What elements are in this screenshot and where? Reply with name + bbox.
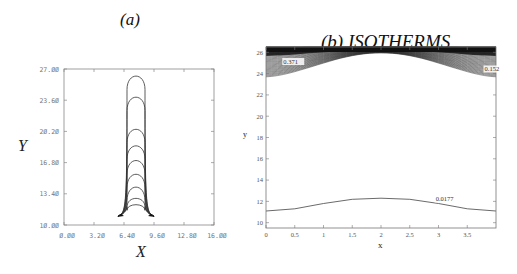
panel-a-plot: Ø.ØØ3.2Ø6.4Ø9.6Ø12.8Ø16.ØØ1Ø.ØØ13.4Ø16.8… (39, 66, 226, 241)
panel-a-y-tick-label: 27.ØØ (39, 66, 59, 74)
panel-a-profile-curve (118, 129, 154, 216)
panel-a-x-tick-label: 16.ØØ (207, 232, 227, 240)
panel-b-y-tick-label: 24 (257, 70, 264, 77)
panel-b-y-tick-label: 14 (257, 176, 264, 183)
panel-a-profile-curve (118, 161, 154, 216)
panel-b-y-tick-label: 10 (257, 219, 264, 226)
panel-a-frame (64, 69, 214, 225)
panel-a-base-left (117, 214, 124, 217)
panel-b-x-tick-label: 3.5 (463, 231, 471, 238)
panel-b-y-tick-label: 18 (257, 134, 264, 141)
panel-a-y-tick-label: 16.8Ø (39, 159, 59, 167)
panel-a-y-tick-label: 2Ø.2Ø (39, 128, 59, 136)
panel-b-contour-label: 0.152 (485, 65, 500, 72)
panel-b-x-tick-label: 2.5 (406, 231, 414, 238)
panel-b-x-tick-label: 0 (264, 231, 267, 238)
panel-a-x-tick-label: 3.2Ø (89, 232, 105, 240)
panel-b-x-tick-label: 2 (379, 231, 382, 238)
panel-a-base-right (148, 214, 155, 217)
panel-a-x-tick-label: 6.4Ø (119, 232, 135, 240)
panel-b-y-tick-label: 26 (257, 49, 264, 56)
panel-b-plot: 0.3710.1520.017700.511.522.533.510121416… (257, 47, 506, 238)
panel-b-contour-label: 0.0177 (436, 195, 455, 202)
panel-a-y-tick-label: 13.4Ø (39, 190, 59, 198)
panel-a-x-tick-label: Ø.ØØ (59, 232, 75, 240)
panel-b-isotherm-0.0177 (266, 198, 496, 211)
panel-a-y-tick-label: 23.6Ø (39, 97, 59, 105)
panel-b-y-tick-label: 12 (257, 198, 264, 205)
panel-a-profile-curve (118, 146, 154, 216)
panel-b-frame (266, 47, 496, 228)
panel-b-x-tick-label: 0.5 (291, 231, 299, 238)
panel-b-x-tick-label: 1 (322, 231, 325, 238)
charts-canvas: Ø.ØØ3.2Ø6.4Ø9.6Ø12.8Ø16.ØØ1Ø.ØØ13.4Ø16.8… (0, 0, 517, 274)
panel-a-y-tick-label: 1Ø.ØØ (39, 222, 59, 230)
panel-b-x-tick-label: 3 (437, 231, 440, 238)
panel-b-y-tick-label: 16 (257, 155, 264, 162)
panel-b-contour-label: 0.371 (283, 58, 298, 65)
panel-a-x-tick-label: 9.6Ø (149, 232, 165, 240)
panel-b-y-tick-label: 22 (257, 91, 264, 98)
panel-b-x-tick-label: 1.5 (348, 231, 356, 238)
panel-b-y-tick-label: 20 (257, 113, 264, 120)
panel-a-x-tick-label: 12.8Ø (177, 232, 197, 240)
